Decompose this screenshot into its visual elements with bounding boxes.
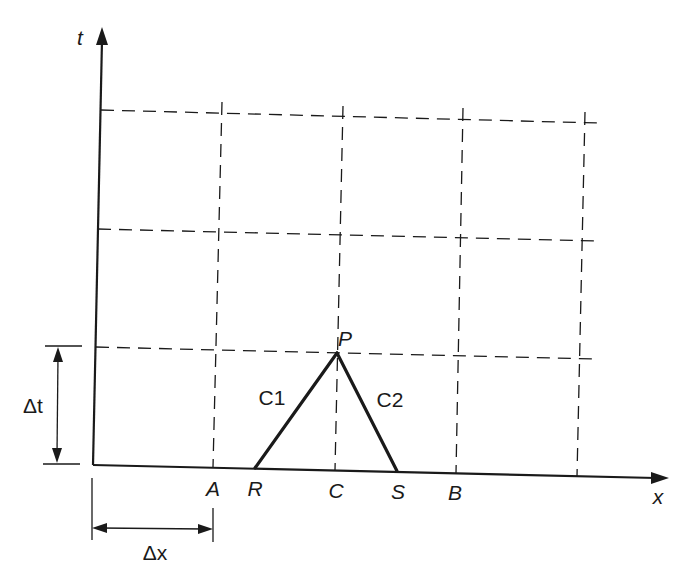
c2-label: C2 [377,388,404,411]
point-c-label: C [328,479,344,502]
x-axis-label: x [652,485,665,508]
dt-arrow-down-icon [52,448,62,463]
dt-label: Δt [23,394,43,417]
grid-line-t3 [101,110,598,123]
t-axis-arrow-icon [96,27,108,45]
dt-dimension [43,346,82,464]
characteristics [255,353,397,471]
x-axis-arrow-icon [651,472,669,484]
characteristics-diagram: t x A R C S B P C1 C2 Δt Δx [0,0,690,583]
x-axis [93,465,656,478]
grid-vertical-lines [213,102,585,476]
axes [93,27,669,484]
point-a-label: A [204,477,220,500]
dx-arrow-line [100,528,205,529]
characteristic-c1 [255,353,337,468]
point-b-label: B [448,481,462,504]
c1-label: C1 [259,386,286,409]
dx-arrow-left-icon [92,523,107,533]
grid-line-c [335,106,343,470]
labels: t x A R C S B P C1 C2 Δt Δx [23,26,665,564]
grid-line-a [213,102,222,467]
grid-line-b [456,108,463,473]
t-axis [93,40,102,465]
point-p-label: P [338,327,352,350]
grid-horizontal-lines [96,110,598,359]
grid-line-t2 [98,229,596,241]
dt-arrow-up-icon [53,347,63,362]
t-axis-label: t [77,26,84,49]
characteristic-c2 [337,353,397,471]
point-r-label: R [247,477,262,500]
dx-arrow-right-icon [198,524,213,534]
dx-dimension [92,478,213,542]
dt-arrow-line [57,356,58,454]
grid-line-4 [577,112,585,476]
point-s-label: S [391,480,405,503]
dx-label: Δx [143,541,168,564]
